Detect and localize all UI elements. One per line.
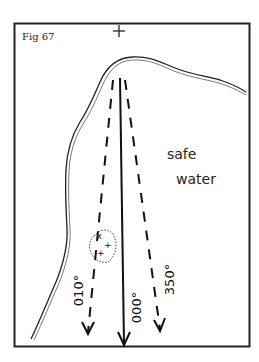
safe-water-label-line2: water xyxy=(176,171,216,187)
rock-mark: + xyxy=(104,240,112,250)
safe-water-label-line1: safe xyxy=(167,146,196,162)
bearing-label-350: 350° xyxy=(162,264,177,295)
bearing-label-000: 000° xyxy=(129,292,144,323)
figure-label: Fig 67 xyxy=(22,31,54,42)
navigation-diagram: x + + Fig 67 safe water 010° 000° 350° xyxy=(0,0,259,362)
rock-mark: + xyxy=(97,248,105,258)
rock-mark: x xyxy=(97,232,102,241)
arrowhead-350-icon xyxy=(154,318,165,331)
top-cross-marker xyxy=(113,25,125,37)
bearing-label-010: 010° xyxy=(71,275,86,306)
